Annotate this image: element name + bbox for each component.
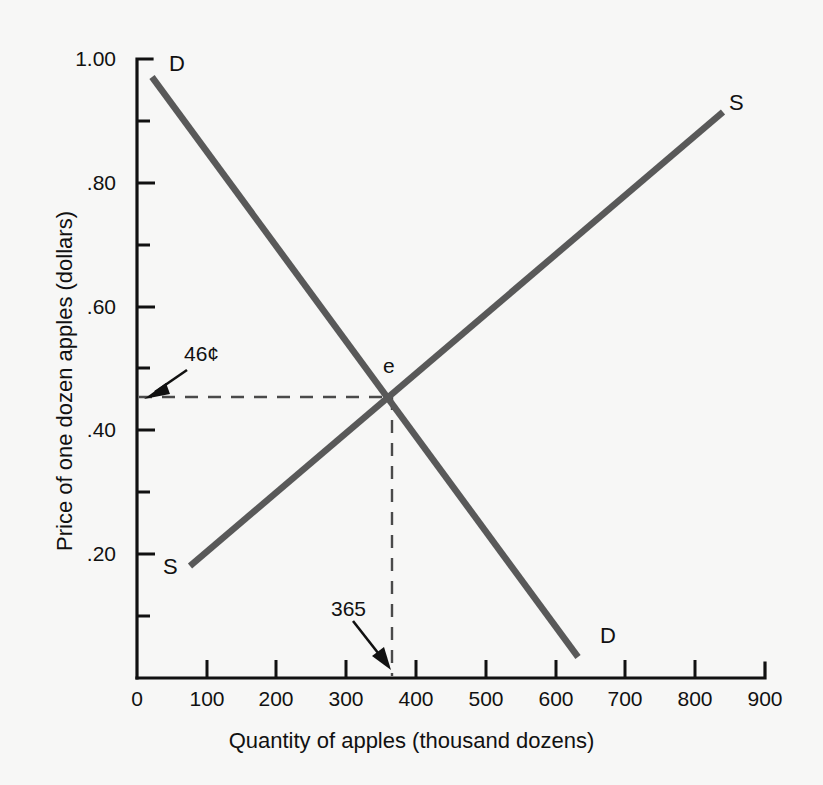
supply-curve	[190, 112, 723, 566]
x-tick-label-100: 100	[177, 688, 237, 709]
demand-curve	[152, 77, 578, 657]
x-tick-label-700: 700	[595, 688, 655, 709]
demand-curve-label-bottom: D	[600, 625, 616, 647]
y-axis-minor-ticks	[137, 121, 150, 616]
x-tick-label-0: 0	[107, 688, 167, 709]
equilibrium-point-label: e	[383, 355, 395, 376]
demand-curve-label-top: D	[169, 53, 185, 75]
equilibrium-quantity-annotation: 365	[331, 598, 366, 619]
x-axis	[137, 663, 765, 678]
y-tick-label-1.00: 1.00	[46, 48, 116, 69]
x-tick-label-200: 200	[246, 688, 306, 709]
x-axis-title: Quantity of apples (thousand dozens)	[0, 730, 823, 752]
x-tick-label-600: 600	[526, 688, 586, 709]
x-tick-label-400: 400	[386, 688, 446, 709]
x-axis-ticks	[207, 660, 695, 678]
equilibrium-price-annotation: 46¢	[184, 343, 219, 364]
chart-page: 1.00 .80 .60 .40 .20 0 100 200 300 400 5…	[0, 0, 823, 785]
supply-demand-plot	[0, 0, 823, 785]
x-tick-label-300: 300	[316, 688, 376, 709]
quantity-annotation-arrow	[353, 621, 391, 670]
supply-curve-label-bottom: S	[163, 556, 178, 578]
x-tick-label-900: 900	[735, 688, 795, 709]
y-axis-title: Price of one dozen apples (dollars)	[54, 151, 76, 611]
supply-curve-label-top: S	[729, 92, 744, 114]
x-tick-label-800: 800	[665, 688, 725, 709]
price-annotation-arrow	[144, 370, 187, 399]
x-tick-label-500: 500	[456, 688, 516, 709]
